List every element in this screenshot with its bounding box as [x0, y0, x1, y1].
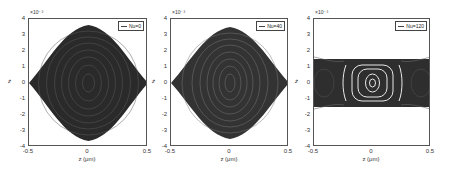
y-tick: -1	[300, 95, 310, 101]
x-axis-label: z (μm)	[351, 156, 391, 162]
x-tick: 0.5	[420, 148, 440, 154]
legend-label: Nu=120	[406, 23, 424, 29]
y-tick: -2	[300, 111, 310, 117]
y-exponent-label: ×10⁻³	[172, 9, 185, 15]
y-tick: 2	[300, 47, 310, 53]
x-tick: 0	[361, 148, 381, 154]
x-tick: 0	[219, 148, 239, 154]
y-tick: 1	[300, 63, 310, 69]
y-tick: 2	[15, 47, 25, 53]
y-tick: -3	[15, 127, 25, 133]
y-tick: 1	[15, 63, 25, 69]
y-exponent-label: ×10⁻³	[30, 9, 43, 15]
y-tick: 4	[157, 15, 167, 21]
panel-nu-0: ×10⁻³ ż 4 3 2 1 0 -1 -2 -3 -4 Nu=0 -0.5 …	[0, 0, 150, 169]
legend: Nu=120	[395, 21, 427, 31]
y-tick: 4	[15, 15, 25, 21]
y-tick: 0	[300, 79, 310, 85]
y-tick: -3	[300, 127, 310, 133]
legend-label: Nu=40	[267, 23, 282, 29]
legend: Nu=40	[256, 21, 285, 31]
y-tick: -2	[15, 111, 25, 117]
phase-portrait	[29, 19, 147, 146]
x-tick: -0.5	[303, 148, 323, 154]
x-tick: 0	[77, 148, 97, 154]
y-tick: 1	[157, 63, 167, 69]
legend: Nu=0	[118, 21, 144, 31]
y-tick: 2	[157, 47, 167, 53]
y-tick: -1	[15, 95, 25, 101]
panel-nu-40: ×10⁻³ ż 4 3 2 1 0 -1 -2 -3 -4 Nu=40 -0.5…	[143, 0, 293, 169]
x-axis-label: z (μm)	[209, 156, 249, 162]
y-axis-label: ż	[152, 78, 155, 84]
y-axis-label: ż	[295, 78, 298, 84]
y-tick: 3	[157, 31, 167, 37]
y-tick: -1	[157, 95, 167, 101]
y-tick: -3	[157, 127, 167, 133]
x-tick: -0.5	[160, 148, 180, 154]
y-tick: -2	[157, 111, 167, 117]
y-exponent-label: ×10⁻³	[315, 9, 328, 15]
y-tick: 0	[157, 79, 167, 85]
plot-area: Nu=40	[170, 18, 288, 146]
y-tick: 3	[15, 31, 25, 37]
y-tick: 4	[300, 15, 310, 21]
phase-portrait	[314, 19, 430, 146]
panel-nu-120: ×10⁻³ ż 4 3 2 1 0 -1 -2 -3 -4	[286, 0, 451, 169]
plot-area: Nu=120	[313, 18, 430, 146]
y-tick: 3	[300, 31, 310, 37]
legend-label: Nu=0	[129, 23, 141, 29]
y-axis-label: ż	[8, 78, 11, 84]
y-tick: 0	[15, 79, 25, 85]
x-tick: -0.5	[18, 148, 38, 154]
x-axis-label: z (μm)	[67, 156, 107, 162]
phase-portrait	[171, 19, 288, 146]
plot-area: Nu=0	[28, 18, 147, 146]
